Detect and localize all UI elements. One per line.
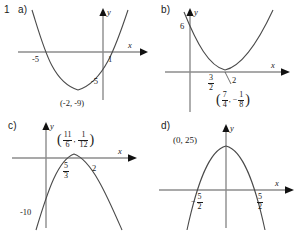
y-axis-arrow xyxy=(222,124,229,132)
y-axis-label-a: y xyxy=(107,8,111,17)
x-intercept-label-c-1: 5 3 xyxy=(63,162,69,180)
panel-a: 1 a) -5 1 -5 (-2, -9) x y xyxy=(0,0,153,117)
fraction-1-12: 1 12 xyxy=(78,131,88,149)
x-axis-label-c: x xyxy=(118,147,122,156)
y-axis-label-b: y xyxy=(194,8,198,17)
parabola-a xyxy=(32,10,128,90)
y-axis-arrow xyxy=(186,8,193,16)
x-intercept-label-b-2: 2 xyxy=(232,76,236,85)
vertex-leader-b xyxy=(225,72,231,84)
fraction-11-6: 11 6 xyxy=(63,131,73,149)
vertex-label-c: ( 11 6 , 1 12 ) xyxy=(57,131,94,149)
vertex-label-d: (0, 25) xyxy=(173,136,197,145)
fraction-5-2-negative: 5 2 xyxy=(197,193,203,211)
fraction-7-4: 7 4 xyxy=(222,91,228,109)
x-axis-label-b: x xyxy=(271,61,275,70)
fraction-5-2: 5 2 xyxy=(257,193,263,211)
fraction-1-8: 1 8 xyxy=(238,91,244,109)
vertex-label-b: ( 7 4 , − 1 8 ) xyxy=(216,91,250,109)
minus-sign: − xyxy=(191,198,196,206)
x-intercept-label-c-2: 2 xyxy=(92,164,96,173)
x-intercept-label-d-1: − 5 2 xyxy=(191,193,203,211)
y-axis-label-c: y xyxy=(50,122,54,131)
vertex-label-a: (-2, -9) xyxy=(60,99,84,108)
y-axis-arrow xyxy=(42,122,49,130)
parabola-b xyxy=(184,10,273,70)
x-axis-label-d: x xyxy=(275,179,279,188)
x-intercept-label-b-1: 3 2 xyxy=(208,74,214,92)
x-axis-arrow xyxy=(281,68,290,76)
x-axis-arrow xyxy=(140,48,148,56)
paren-close: ) xyxy=(89,133,94,147)
y-axis-arrow xyxy=(99,8,106,16)
panel-d: d) (0, 25) − 5 2 5 2 x y xyxy=(153,118,306,235)
panel-c: c) ( 11 6 , 1 12 ) 5 3 xyxy=(0,118,153,235)
x-intercept-label-neg5: -5 xyxy=(32,55,39,64)
paren-close: ) xyxy=(245,93,250,107)
x-intercept-label-1: 1 xyxy=(108,55,112,64)
y-intercept-label-a: -5 xyxy=(91,77,98,86)
panel-b: b) 6 3 2 2 ( 7 4 , − 1 8 xyxy=(153,0,306,117)
y-intercept-label-c: -10 xyxy=(20,208,31,217)
paren-open: ( xyxy=(216,93,221,107)
comma: , − xyxy=(229,96,238,104)
x-axis-label-a: x xyxy=(128,41,132,50)
x-intercept-label-d-2: 5 2 xyxy=(257,193,263,211)
paren-open: ( xyxy=(57,133,62,147)
x-axis-arrow xyxy=(128,154,137,162)
y-axis-label-d: y xyxy=(230,124,234,133)
comma: , xyxy=(73,136,77,144)
fraction-5-3: 5 3 xyxy=(63,162,69,180)
fraction-3-2: 3 2 xyxy=(208,74,214,92)
y-intercept-label-b: 6 xyxy=(180,22,184,31)
parabola-c xyxy=(36,154,122,230)
x-axis-arrow xyxy=(285,186,294,194)
